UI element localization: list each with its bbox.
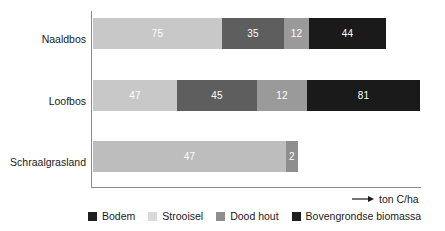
bar-segment-bodem[interactable]: 12 [284,18,309,49]
legend-item[interactable]: Bodem [88,210,135,222]
bar-segment-dood-hout[interactable]: 45 [177,80,257,111]
legend-swatch-icon [216,212,225,221]
category-label-schraalgrasland: Schraalgrasland [10,156,86,168]
category-label-loofbos: Loofbos [49,95,86,107]
bar-segment-value: 47 [129,90,141,101]
bar-segment-value: 75 [152,28,164,39]
legend-swatch-icon [292,212,301,221]
bar-segment-strooisel[interactable]: 47 [93,80,177,111]
bar-segment-bodem[interactable]: 12 [257,80,307,111]
x-axis-line [91,187,421,188]
bar-segment-value: 45 [211,90,223,101]
bar-row[interactable]: 472 [93,141,298,172]
legend-label: Strooisel [162,210,203,222]
bar-segment-bodem[interactable]: 2 [286,141,298,172]
bar-segment-value: 44 [342,28,354,39]
legend-item[interactable]: Bovengrondse biomassa [292,210,422,222]
chart-legend: BodemStrooiselDood houtBovengrondse biom… [88,210,421,222]
bar-segment-bovengrondse-biomassa[interactable]: 44 [309,18,386,49]
bar-segment-strooisel[interactable]: 75 [93,18,222,49]
category-label-naaldbos: Naaldbos [42,33,86,45]
y-axis-line [91,11,92,188]
bar-segment-value: 81 [358,90,370,101]
legend-swatch-icon [148,212,157,221]
bar-segment-value: 2 [289,151,295,162]
legend-swatch-icon [88,212,97,221]
legend-item[interactable]: Dood hout [216,210,278,222]
legend-label: Bodem [102,210,135,222]
bar-segment-value: 12 [291,28,303,39]
legend-item[interactable]: Strooisel [148,210,203,222]
legend-label: Bovengrondse biomassa [306,210,422,222]
stacked-bar-chart: Naaldbos Loofbos Schraalgrasland 7535124… [0,0,445,231]
bar-row[interactable]: 75351244 [93,18,386,49]
bar-segment-bovengrondse-biomassa[interactable]: 81 [307,80,420,111]
bar-segment-dood-hout[interactable]: 35 [222,18,284,49]
bar-segment-value: 47 [184,151,196,162]
axis-unit-label: ton C/ha [379,193,419,205]
legend-label: Dood hout [230,210,278,222]
bar-row[interactable]: 47451281 [93,80,420,111]
arrow-right-icon [352,195,374,203]
bar-segment-strooisel[interactable]: 47 [93,141,286,172]
axis-unit-caption: ton C/ha [352,193,419,205]
bar-segment-value: 12 [276,90,288,101]
bar-segment-value: 35 [247,28,259,39]
